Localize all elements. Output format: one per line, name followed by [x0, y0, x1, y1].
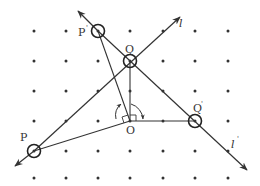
label-Q: Q — [125, 43, 134, 56]
rotation-arc-P — [116, 104, 121, 119]
label-l: l — [179, 17, 183, 30]
label-P-prime: P — [78, 26, 86, 39]
segment-OP — [34, 121, 130, 151]
line-l-prime — [98, 31, 247, 170]
rotation-arc-Q — [131, 104, 143, 119]
line-l-tail — [15, 151, 34, 166]
label-l-prime-mark: ' — [237, 135, 239, 143]
label-P-prime-mark: ' — [86, 24, 88, 32]
line-l — [34, 17, 180, 151]
rotation-diagram: P P ' Q Q ' O l l ' — [0, 0, 260, 186]
label-P: P — [20, 131, 28, 144]
label-l-prime: l — [231, 138, 235, 151]
point-O — [129, 120, 132, 123]
label-Q-prime-mark: ' — [201, 100, 203, 108]
label-O: O — [126, 124, 135, 137]
